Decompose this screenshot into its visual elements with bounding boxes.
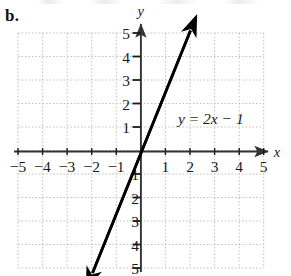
axes	[14, 24, 268, 272]
y-tick-label: 3	[131, 213, 139, 230]
y-tick-label: 3	[122, 72, 130, 89]
x-tick-label: −4	[34, 158, 51, 175]
y-tick-label: 2	[122, 96, 130, 113]
y-tick-label: 2	[131, 190, 139, 207]
y-axis-label: y	[136, 3, 145, 19]
y-tick-label: 5	[122, 25, 130, 42]
x-tick-label: −1	[108, 158, 125, 175]
x-tick-label: −3	[59, 158, 76, 175]
page-edge-artifact	[38, 0, 268, 4]
y-tick-label: 4	[131, 237, 139, 254]
part-label: b.	[5, 7, 19, 24]
equation-annotation: y = 2x − 1	[176, 110, 244, 127]
x-tick-label: 3	[211, 158, 219, 175]
x-tick-label: −5	[10, 158, 27, 175]
x-axis-label: x	[273, 144, 281, 160]
y-tick-label: 1	[122, 119, 130, 136]
x-tick-label: 1	[162, 158, 170, 175]
y-tick-label: 4	[122, 49, 130, 66]
x-tick-label: 5	[260, 158, 268, 175]
x-tick-label: −2	[83, 158, 100, 175]
x-tick-label: 2	[186, 158, 194, 175]
graph-figure: b.	[0, 0, 291, 276]
coordinate-plane: 5 4 3 2 1 1 2 3 4 5 −5 −4	[0, 0, 291, 276]
x-tick-label: 4	[235, 158, 243, 175]
y-tick-label: 5	[131, 260, 139, 276]
